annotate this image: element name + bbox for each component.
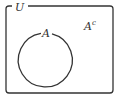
complement-label: Ac <box>83 19 96 33</box>
universe-label: U <box>15 1 25 14</box>
set-a-circle <box>18 33 72 87</box>
venn-diagram: U A Ac <box>0 0 115 103</box>
set-a-label: A <box>41 27 50 40</box>
universe-rectangle <box>6 6 113 93</box>
